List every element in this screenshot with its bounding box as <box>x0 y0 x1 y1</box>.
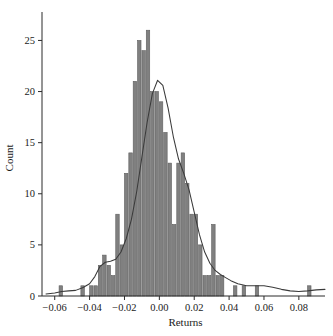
x-tick-label: 0.02 <box>185 302 203 313</box>
histogram-bar <box>151 92 154 296</box>
histogram-bar <box>212 224 215 296</box>
y-tick-label: 10 <box>25 188 36 199</box>
x-tick-label: 0.08 <box>290 302 308 313</box>
histogram-bar <box>103 255 106 296</box>
x-tick-label: 0.06 <box>255 302 273 313</box>
histogram-chart: 0510152025 −0.06−0.04−0.020.000.020.040.… <box>0 0 333 336</box>
histogram-bar <box>207 276 210 296</box>
histogram-bar <box>186 184 189 296</box>
x-tick-label: −0.02 <box>112 302 136 313</box>
histogram-bar <box>172 224 175 296</box>
y-tick-label: 25 <box>25 35 36 46</box>
histogram-bar <box>107 265 110 296</box>
x-tick-label: −0.04 <box>77 302 102 313</box>
histogram-bar <box>133 81 136 296</box>
histogram-bar <box>146 30 149 296</box>
histogram-bar <box>164 132 167 296</box>
y-axis: 0510152025 <box>25 12 43 302</box>
histogram-bar <box>216 276 219 296</box>
histogram-bar <box>177 163 180 296</box>
y-tick-label: 0 <box>30 291 35 302</box>
x-tick-label: 0.04 <box>220 302 239 313</box>
x-tick-label: 0.00 <box>150 302 168 313</box>
histogram-bar <box>233 286 236 296</box>
histogram-bar <box>155 92 158 296</box>
histogram-bars <box>59 30 311 296</box>
y-tick-label: 15 <box>25 137 36 148</box>
x-tick-label: −0.06 <box>43 302 67 313</box>
histogram-bar <box>190 214 193 296</box>
histogram-bar <box>255 286 258 296</box>
histogram-bar <box>199 245 202 296</box>
x-axis-title: Returns <box>168 316 202 328</box>
histogram-bar <box>168 163 171 296</box>
histogram-bar <box>142 51 145 296</box>
x-axis: −0.06−0.04−0.020.000.020.040.060.08 <box>42 296 325 313</box>
y-axis-title: Count <box>3 145 15 172</box>
histogram-bar <box>111 276 114 296</box>
y-tick-label: 20 <box>25 86 36 97</box>
histogram-bar <box>242 286 245 296</box>
histogram-bar <box>203 276 206 296</box>
histogram-bar <box>90 286 93 296</box>
histogram-bar <box>94 286 97 296</box>
histogram-bar <box>98 265 101 296</box>
histogram-bar <box>220 276 223 296</box>
chart-canvas: 0510152025 −0.06−0.04−0.020.000.020.040.… <box>0 0 333 336</box>
histogram-bar <box>159 102 162 296</box>
y-tick-label: 5 <box>30 239 35 250</box>
